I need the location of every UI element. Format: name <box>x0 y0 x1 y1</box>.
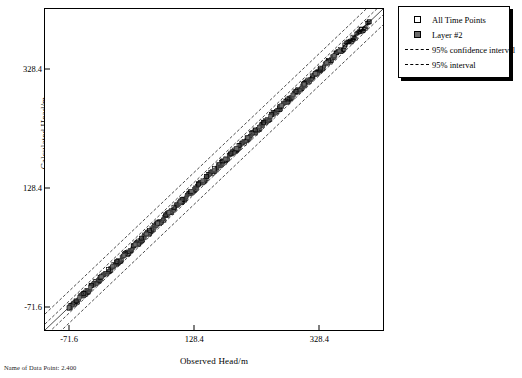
scatter-series <box>45 9 383 330</box>
dashed-line-icon <box>404 49 430 50</box>
dashed-line-icon <box>404 64 430 65</box>
plot-canvas <box>45 9 383 330</box>
y-tick-label: 328.4 <box>23 64 42 74</box>
x-tick-label: 328.4 <box>310 334 329 344</box>
legend-label-95-interval: 95% interval <box>430 60 476 70</box>
x-tick-mark <box>194 325 195 330</box>
y-tick-mark <box>45 188 50 189</box>
plot-area: -71.6128.4328.4 -71.6128.4328.4 <box>44 8 384 331</box>
legend-item-layer-2[interactable]: Layer #2 <box>404 27 505 42</box>
legend-item-95-interval[interactable]: 95% interval <box>404 57 505 72</box>
legend-item-all-time-points[interactable]: All Time Points <box>404 12 505 27</box>
legend-item-confidence-interval[interactable]: 95% confidence interval <box>404 42 505 57</box>
chart-page: Calculated Head/m Observed Head/m -71.61… <box>0 0 522 378</box>
footer-note: Name of Data Point: 2.400 <box>4 364 76 371</box>
x-tick-label: -71.6 <box>60 334 78 344</box>
legend: All Time Points Layer #2 95% confidence … <box>398 6 510 78</box>
legend-label-all-time-points: All Time Points <box>430 15 486 25</box>
x-axis-title: Observed Head/m <box>44 356 384 366</box>
x-tick-mark <box>69 325 70 330</box>
open-square-icon <box>404 16 430 23</box>
y-tick-mark <box>45 307 50 308</box>
legend-label-confidence-interval: 95% confidence interval <box>430 45 515 55</box>
legend-label-layer-2: Layer #2 <box>430 30 462 40</box>
y-tick-mark <box>45 69 50 70</box>
filled-square-icon <box>404 31 430 38</box>
x-tick-label: 128.4 <box>185 334 204 344</box>
x-tick-mark <box>319 325 320 330</box>
y-tick-label: 128.4 <box>23 183 42 193</box>
y-tick-label: -71.6 <box>24 302 42 312</box>
